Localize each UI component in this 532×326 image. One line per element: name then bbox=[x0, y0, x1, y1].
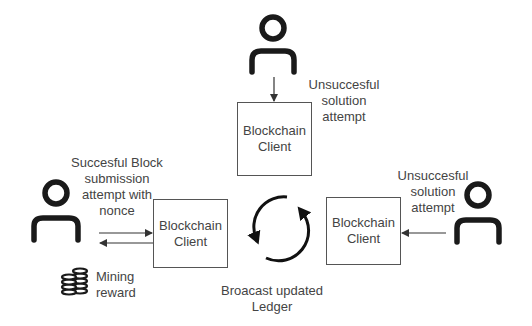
label-top-attempt: Unsuccesful solution attempt bbox=[304, 77, 384, 125]
sync-cycle-icon bbox=[254, 197, 309, 261]
client-right-line1: Blockchain bbox=[332, 215, 395, 231]
blockchain-client-top: Blockchain Client bbox=[237, 102, 312, 176]
client-right-line2: Client bbox=[347, 231, 380, 247]
label-right-attempt: Unsuccesful solution attempt bbox=[393, 168, 473, 216]
client-top-line2: Client bbox=[258, 139, 291, 155]
coins-icon bbox=[62, 269, 87, 295]
user-icon-top bbox=[252, 17, 294, 72]
label-mining-reward: Mining reward bbox=[96, 269, 136, 301]
client-left-line1: Blockchain bbox=[159, 218, 222, 234]
client-top-line1: Blockchain bbox=[243, 123, 306, 139]
blockchain-client-right: Blockchain Client bbox=[326, 197, 401, 265]
label-left-attempt: Succesful Block submission attempt with … bbox=[62, 155, 172, 219]
client-left-line2: Client bbox=[174, 234, 207, 250]
label-broadcast-ledger: Broacast updated Ledger bbox=[217, 283, 327, 315]
